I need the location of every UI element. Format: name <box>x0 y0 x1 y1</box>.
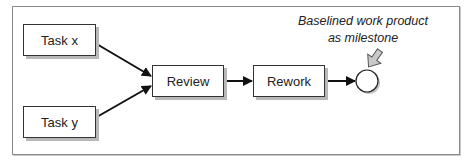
edge-taskx-review <box>95 43 151 76</box>
milestone-annotation: Baselined work product as milestone <box>278 13 448 47</box>
task-x-box: Task x <box>23 24 96 56</box>
milestone-circle <box>356 70 378 92</box>
review-box: Review <box>152 65 224 97</box>
task-y-label: Task y <box>41 115 78 130</box>
edge-tasky-review <box>95 86 151 118</box>
callout-arrow-icon <box>362 46 387 72</box>
rework-box: Rework <box>253 65 325 97</box>
rework-label: Rework <box>267 74 311 89</box>
task-x-label: Task x <box>41 33 78 48</box>
task-y-box: Task y <box>23 106 96 138</box>
annotation-line-2: as milestone <box>278 30 448 47</box>
review-label: Review <box>167 74 210 89</box>
annotation-line-1: Baselined work product <box>278 13 448 30</box>
